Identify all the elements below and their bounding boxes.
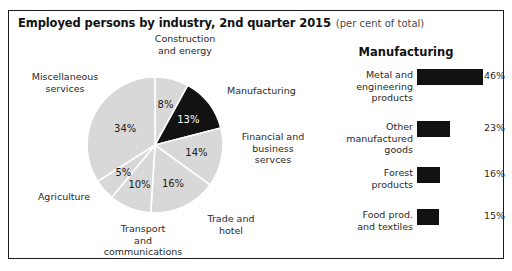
- pie-callout-trade-and-hotel: Trade and hotel: [193, 213, 269, 236]
- bar-value-label: 15%: [481, 210, 505, 221]
- bar-row-label: Metal and engineering products: [315, 69, 413, 104]
- bar-row-label: Food prod. and textiles: [315, 209, 413, 232]
- pie-value-14pct: 14%: [185, 147, 207, 158]
- pie-value-8pct: 8%: [158, 99, 174, 110]
- pie-callout-manufacturing: Manufacturing: [227, 85, 311, 97]
- bar-row: Forest products16%: [309, 167, 503, 213]
- pie-value-34pct: 34%: [114, 123, 136, 134]
- pie-value-16pct: 16%: [162, 178, 184, 189]
- bar-row-label: Forest products: [315, 167, 413, 190]
- pie-value-13pct: 13%: [177, 114, 199, 125]
- pie-callout-financial-and-business-services: Financial and business servces: [237, 131, 309, 166]
- bar-row: Other manufactured goods23%: [309, 121, 503, 167]
- figure-title: Employed persons by industry, 2nd quarte…: [9, 11, 503, 35]
- pie-callout-construction-and-energy: Construction and energy: [133, 33, 237, 56]
- bar-track: [417, 69, 483, 85]
- bar-value-label: 46%: [481, 70, 505, 81]
- bar-row: Metal and engineering products46%: [309, 69, 503, 115]
- bar-track: [417, 167, 440, 183]
- figure-title-main: Employed persons by industry, 2nd quarte…: [18, 16, 331, 30]
- bar-row-label: Other manufactured goods: [315, 121, 413, 156]
- figure-title-subtitle: (per cent of total): [336, 18, 424, 29]
- bar-fill: [417, 167, 440, 183]
- bar-value-label: 23%: [481, 122, 505, 133]
- pie-callout-agriculture: Agriculture: [23, 191, 105, 203]
- bar-track: [417, 121, 450, 137]
- chart-figure: Employed persons by industry, 2nd quarte…: [8, 10, 504, 259]
- bar-fill: [417, 209, 439, 225]
- pie-value-10pct: 10%: [128, 179, 150, 190]
- bar-fill: [417, 69, 483, 85]
- pie-callout-transport-and-communications: Transport and communications: [87, 223, 199, 258]
- bar-fill: [417, 121, 450, 137]
- pie-chart-panel: 8%13%14%16%10%5%34% Miscellaneous servic…: [9, 35, 309, 258]
- pie-callout-miscellaneous-services: Miscellaneous services: [13, 71, 117, 94]
- pie-value-5pct: 5%: [115, 167, 131, 178]
- pie-slices: [87, 77, 223, 213]
- bar-row: Food prod. and textiles15%: [309, 209, 503, 255]
- bar-chart-panel: Manufacturing Metal and engineering prod…: [309, 35, 503, 258]
- bar-value-label: 16%: [481, 168, 505, 179]
- bar-track: [417, 209, 439, 225]
- bar-chart-heading: Manufacturing: [309, 45, 503, 59]
